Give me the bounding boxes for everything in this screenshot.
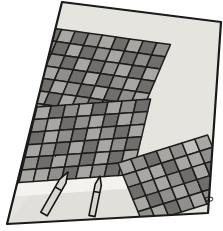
solar-panel-illustration: 0 [0,0,223,231]
panel-cell [124,137,141,151]
panel-cell [133,99,150,113]
panel-cell [127,124,144,138]
edge-mark: 0 [203,196,215,202]
illustration-canvas: 0 [0,0,223,231]
panel-cell [130,112,147,126]
